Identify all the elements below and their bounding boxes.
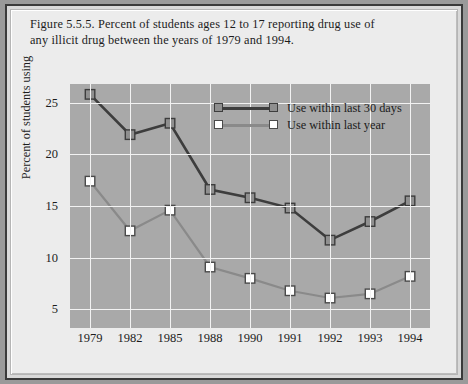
legend-item: Use within last year (213, 117, 385, 133)
x-axis-tick-label: 1982 (118, 331, 143, 346)
legend-line (219, 124, 273, 127)
y-axis-tick-label: 25 (46, 95, 59, 110)
gridline-vertical (90, 84, 91, 328)
x-axis-tick-label: 1985 (158, 331, 183, 346)
legend-sample (213, 118, 279, 132)
y-axis-tick-label: 20 (46, 147, 59, 162)
x-axis-tick-label: 1994 (398, 331, 423, 346)
gridline-vertical (170, 84, 171, 328)
legend-marker (214, 103, 223, 112)
x-axis-tick-label: 1991 (278, 331, 303, 346)
legend-sample (213, 101, 279, 115)
x-axis-tick-labels: 197919821985198819901991199219931994 (70, 331, 430, 353)
x-axis-tick-label: 1990 (238, 331, 263, 346)
x-axis-tick-label: 1979 (78, 331, 103, 346)
figure-title: Figure 5.5.5. Percent of students ages 1… (30, 17, 440, 48)
y-axis-tick-label: 10 (46, 250, 59, 265)
legend-marker (269, 103, 278, 112)
gridline-vertical (210, 84, 211, 328)
legend-label: Use within last 30 days (279, 101, 402, 116)
legend-marker (214, 120, 223, 129)
y-axis-tick-label: 15 (46, 199, 59, 214)
figure-title-line-2: any illicit drug between the years of 19… (30, 33, 440, 49)
legend-item: Use within last 30 days (213, 100, 402, 116)
x-axis-tick-label: 1992 (318, 331, 343, 346)
figure-title-line-1: Figure 5.5.5. Percent of students ages 1… (30, 17, 440, 33)
figure-page: Figure 5.5.5. Percent of students ages 1… (0, 0, 468, 384)
chart-legend: Use within last 30 daysUse within last y… (213, 100, 428, 134)
figure-canvas: Figure 5.5.5. Percent of students ages 1… (0, 0, 468, 384)
x-axis-tick-label: 1993 (358, 331, 383, 346)
y-axis-tick-labels: 510152025 (0, 84, 66, 328)
legend-marker (269, 120, 278, 129)
x-axis-tick-label: 1988 (198, 331, 223, 346)
gridline-vertical (130, 84, 131, 328)
y-axis-tick-label: 5 (52, 302, 58, 317)
legend-label: Use within last year (279, 118, 385, 133)
legend-line (219, 107, 273, 110)
